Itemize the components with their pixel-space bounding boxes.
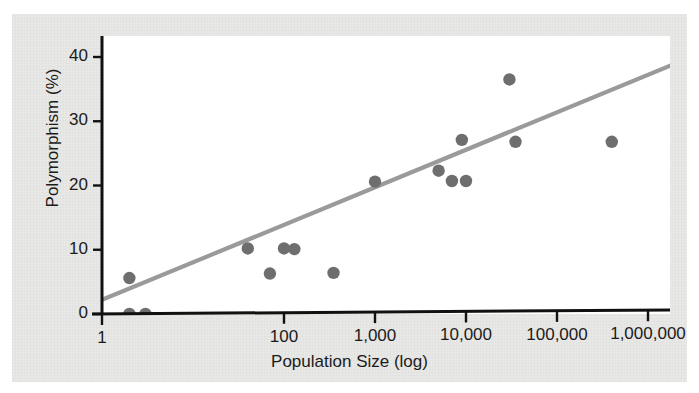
x-tick-label: 1,000,000 xyxy=(588,324,699,344)
data-point xyxy=(327,267,339,279)
data-point xyxy=(242,242,254,254)
data-point xyxy=(456,134,468,146)
trend-line xyxy=(102,63,670,299)
y-tick-label: 20 xyxy=(44,175,88,195)
data-point xyxy=(446,175,458,187)
data-point xyxy=(139,308,151,314)
scatter-plot-svg xyxy=(102,36,670,314)
data-point xyxy=(123,308,135,314)
x-tick-label: 1 xyxy=(42,328,162,348)
data-point xyxy=(123,272,135,284)
figure-container: Polymorphism (%) Population Size (log) 0… xyxy=(0,0,699,393)
x-axis-title: Population Size (log) xyxy=(0,352,699,372)
data-point xyxy=(509,136,521,148)
data-point xyxy=(460,175,472,187)
data-point xyxy=(432,165,444,177)
data-point xyxy=(369,175,381,187)
data-point xyxy=(264,267,276,279)
y-tick-label: 0 xyxy=(44,303,88,323)
data-point xyxy=(503,73,515,85)
plot-panel xyxy=(102,36,670,314)
y-tick-label: 40 xyxy=(44,46,88,66)
y-tick-label: 10 xyxy=(44,239,88,259)
plot-marks xyxy=(102,63,670,314)
y-tick-label: 30 xyxy=(44,110,88,130)
data-point xyxy=(288,243,300,255)
data-point xyxy=(606,136,618,148)
